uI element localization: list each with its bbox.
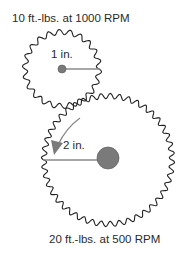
gear-diagram — [0, 0, 188, 257]
small-gear-radius-label: 1 in. — [51, 48, 73, 60]
small-gear-hub — [58, 65, 66, 73]
arrowhead-icon — [51, 140, 63, 155]
large-gear-radius-label: 2 in. — [63, 139, 85, 151]
large-gear-hub — [97, 147, 119, 169]
small-gear-torque-label: 10 ft.-lbs. at 1000 RPM — [12, 12, 130, 24]
large-gear-torque-label: 20 ft.-lbs. at 500 RPM — [49, 233, 160, 245]
